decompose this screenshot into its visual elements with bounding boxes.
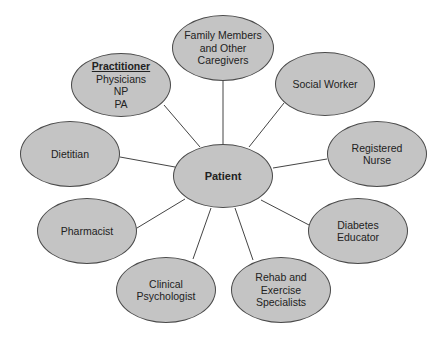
node-label: PA [114,98,127,111]
node-label: NP [114,85,129,98]
node-label: Dietitian [51,148,89,161]
connector-rehab-exercise [235,208,253,260]
node-label: Social Worker [292,78,357,91]
node-family: Family Membersand OtherCaregivers [172,15,274,81]
node-label: Clinical [149,278,183,291]
connector-registered-nurse [273,159,327,168]
node-label: Rehab and [255,271,306,284]
node-label: Exercise [261,284,301,297]
node-label: Patient [205,170,242,183]
connector-dietitian [120,157,175,167]
connector-diabetes-educator [261,200,309,225]
node-registered-nurse: RegisteredNurse [327,121,427,187]
node-label: Educator [337,231,379,244]
node-pharmacist: Pharmacist [37,198,137,264]
node-diabetes-educator: DiabetesEducator [308,198,408,264]
node-heading: Practitioner [92,60,150,73]
node-label: Psychologist [137,290,196,303]
node-social-worker: Social Worker [275,52,375,116]
node-label: Diabetes [337,219,378,232]
connector-practitioner [164,105,200,147]
node-label: Physicians [96,73,146,86]
node-clinical-psychologist: ClinicalPsychologist [116,257,216,323]
connector-social-worker [249,103,284,147]
node-label: Pharmacist [61,225,114,238]
connector-clinical-psychologist [193,208,211,259]
node-label: Specialists [256,296,306,309]
node-label: Family Members [184,29,262,42]
node-label: and Other [200,42,247,55]
care-team-diagram: Patient Family Membersand OtherCaregiver… [0,0,443,343]
connector-pharmacist [137,199,185,228]
node-dietitian: Dietitian [20,121,120,187]
node-label: Caregivers [198,54,249,67]
node-practitioner: PractitionerPhysiciansNPPA [71,53,171,117]
node-rehab-exercise: Rehab andExerciseSpecialists [231,257,331,323]
node-label: Nurse [363,154,391,167]
node-patient: Patient [173,144,273,208]
node-label: Registered [352,142,403,155]
